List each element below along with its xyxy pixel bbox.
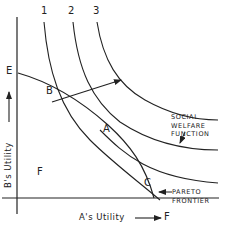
curve-label-3: 3 (93, 6, 99, 16)
welfare-direction-arrow (52, 80, 121, 102)
welfare-curve-3 (97, 22, 218, 120)
welfare-curve-1 (44, 22, 160, 200)
social-welfare-function-label: SOCIAL WELFARE FUNCTION (171, 113, 210, 139)
curve-label-1: 1 (41, 6, 47, 16)
y-axis-label: B's Utility (4, 142, 13, 188)
point-a-label: A (103, 124, 110, 134)
region-label-f: F (37, 167, 43, 177)
point-c-label: C (144, 178, 151, 188)
x-axis-label: A's Utility (79, 213, 125, 222)
y-end-label-e: E (6, 66, 12, 76)
curve-label-2: 2 (68, 6, 74, 16)
point-b-label: B (46, 86, 53, 96)
x-end-label-f: F (164, 212, 170, 222)
pareto-frontier-label: PARETO FRONTIER (172, 188, 210, 205)
